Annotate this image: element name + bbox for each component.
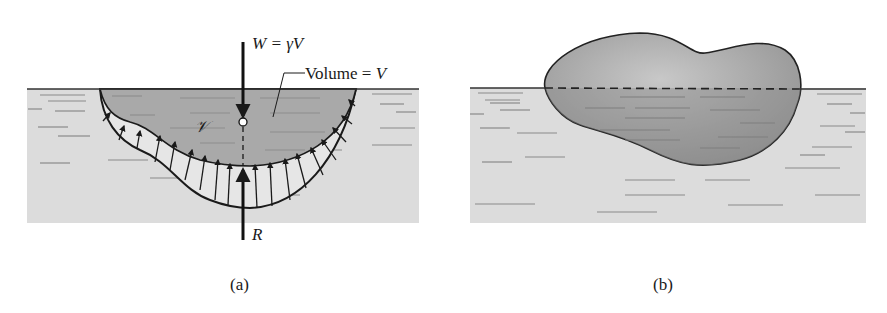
weight-label: W = γV [252,34,306,53]
reaction-label: R [251,225,263,244]
volume-label: Volume = V [305,64,389,83]
panel-a: W = γV Volume = V 𝒱 R (a) [27,34,419,294]
centroid-point [239,118,247,126]
caption-b: (b) [653,275,673,294]
buoyancy-figure: W = γV Volume = V 𝒱 R (a) (b) [0,0,887,313]
caption-a: (a) [230,275,249,294]
panel-b: (b) [470,33,866,294]
